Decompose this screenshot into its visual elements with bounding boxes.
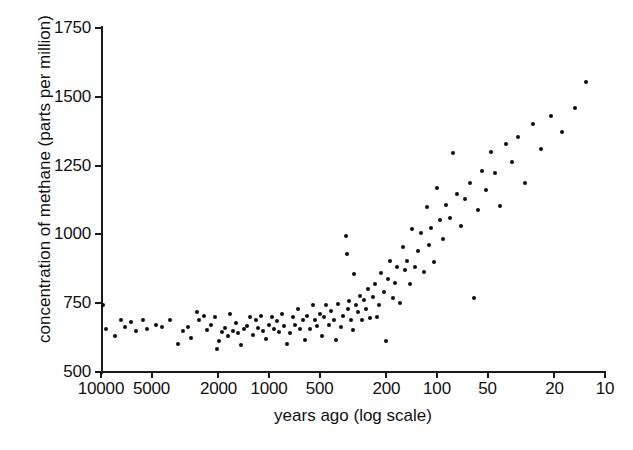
data-point <box>504 142 508 146</box>
data-point <box>419 231 423 235</box>
data-point <box>215 347 219 351</box>
data-point <box>213 315 217 319</box>
x-axis-tick-label: 10000 <box>78 380 124 397</box>
x-axis-tick <box>604 371 606 378</box>
data-point <box>448 216 452 220</box>
data-point <box>261 329 265 333</box>
data-point <box>129 320 133 324</box>
data-point <box>141 318 145 322</box>
y-axis-tick-label: 1000 <box>31 225 91 242</box>
data-point <box>296 307 300 311</box>
x-axis-tick <box>319 371 321 378</box>
data-point <box>322 315 326 319</box>
data-point <box>510 160 514 164</box>
x-axis-tick-label: 200 <box>373 380 401 397</box>
data-point <box>413 265 417 269</box>
data-point <box>239 343 243 347</box>
data-point <box>181 329 185 333</box>
data-point <box>291 315 295 319</box>
data-point <box>345 252 349 256</box>
data-point <box>368 316 372 320</box>
data-point <box>364 307 368 311</box>
data-point <box>349 318 353 322</box>
data-point <box>334 338 338 342</box>
data-point <box>344 234 348 238</box>
methane-concentration-scatter-chart: concentration of methane (parts per mill… <box>0 0 633 450</box>
data-point <box>231 329 235 333</box>
data-point <box>472 296 476 300</box>
x-axis-tick <box>100 371 102 378</box>
x-axis-tick <box>268 371 270 378</box>
data-point <box>305 314 309 318</box>
data-point <box>223 326 227 330</box>
data-point <box>427 243 431 247</box>
data-point <box>493 171 497 175</box>
x-axis-tick-label: 500 <box>306 380 334 397</box>
data-point <box>195 310 199 314</box>
data-point <box>375 315 379 319</box>
y-axis-tick-label: 1750 <box>31 19 91 36</box>
data-point <box>324 303 328 307</box>
data-point <box>352 272 356 276</box>
y-axis-tick-label: 1250 <box>31 157 91 174</box>
data-point <box>332 318 336 322</box>
data-point <box>573 106 577 110</box>
data-point <box>405 259 409 263</box>
data-point <box>226 334 230 338</box>
x-axis-tick-label: 5000 <box>133 380 170 397</box>
data-point <box>242 327 246 331</box>
x-axis-tick <box>385 371 387 378</box>
data-point <box>398 301 402 305</box>
data-point <box>455 192 459 196</box>
data-point <box>484 188 488 192</box>
data-point <box>339 325 343 329</box>
data-point <box>377 303 381 307</box>
data-point <box>327 323 331 327</box>
data-point <box>154 323 158 327</box>
data-point <box>101 303 105 307</box>
data-point <box>277 330 281 334</box>
data-point <box>384 339 388 343</box>
data-point <box>549 114 553 118</box>
data-point <box>408 282 412 286</box>
x-axis-title: years ago (log scale) <box>101 407 605 425</box>
x-axis-tick-label: 2000 <box>200 380 237 397</box>
data-point <box>584 80 588 84</box>
data-point <box>498 204 502 208</box>
plot-area <box>101 28 605 372</box>
data-point <box>560 130 564 134</box>
x-axis-tick-label: 10 <box>596 380 615 397</box>
data-point <box>347 299 351 303</box>
data-point <box>234 321 238 325</box>
data-point <box>245 324 249 328</box>
data-point <box>360 318 364 322</box>
data-point <box>382 290 386 294</box>
data-point <box>356 310 360 314</box>
data-point <box>123 325 127 329</box>
x-axis-tick-label: 50 <box>478 380 497 397</box>
data-point <box>373 282 377 286</box>
x-axis-tick <box>436 371 438 378</box>
data-point <box>176 342 180 346</box>
data-point <box>539 147 543 151</box>
data-point <box>403 268 407 272</box>
data-point <box>422 270 426 274</box>
data-point <box>435 186 439 190</box>
data-point <box>272 327 276 331</box>
data-point <box>275 319 279 323</box>
data-point <box>362 298 366 302</box>
data-point <box>202 314 206 318</box>
data-point <box>354 303 358 307</box>
data-point <box>329 309 333 313</box>
data-point <box>371 295 375 299</box>
data-point <box>134 329 138 333</box>
data-point <box>318 312 322 316</box>
data-point <box>438 218 442 222</box>
data-point <box>393 281 397 285</box>
data-point <box>288 331 292 335</box>
data-point <box>516 135 520 139</box>
data-point <box>425 205 429 209</box>
data-point <box>489 150 493 154</box>
data-point <box>451 151 455 155</box>
data-point <box>468 181 472 185</box>
